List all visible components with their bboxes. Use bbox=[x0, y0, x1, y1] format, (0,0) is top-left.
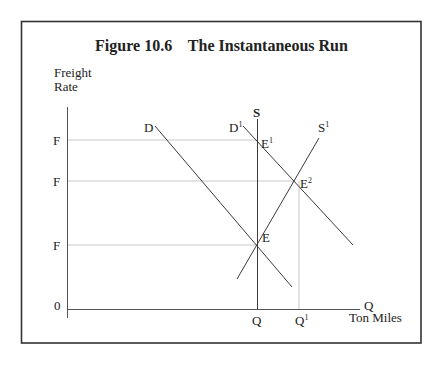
y-tick-f-middle: F bbox=[53, 174, 60, 189]
instantaneous-run-diagram: Figure 10.6 The Instantaneous Run Freigh… bbox=[0, 0, 443, 368]
y-axis-label-line2: Rate bbox=[54, 79, 78, 94]
point-e: E bbox=[262, 230, 270, 245]
label-d: D bbox=[144, 120, 153, 135]
label-s: S bbox=[253, 105, 260, 120]
x-tick-q: Q bbox=[252, 313, 262, 328]
y-tick-f-low: F bbox=[53, 238, 60, 253]
figure-title: Figure 10.6 The Instantaneous Run bbox=[95, 37, 348, 55]
origin-label: 0 bbox=[54, 298, 61, 313]
y-axis-label-line1: Freight bbox=[54, 65, 92, 80]
x-axis-unit-label: Ton Miles bbox=[349, 310, 402, 325]
y-tick-f-high: F bbox=[53, 133, 60, 148]
